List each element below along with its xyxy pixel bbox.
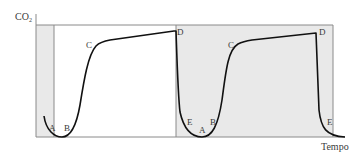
phase-label-c2: C bbox=[228, 40, 234, 50]
phase-label-e3: E bbox=[327, 117, 333, 127]
phase-label-d2: D bbox=[319, 27, 326, 37]
phase-label-a2: A bbox=[199, 125, 206, 135]
phase-label-b2: B bbox=[210, 117, 216, 127]
capnogram-diagram: CO2 Tempo A B C D E A B C D E bbox=[0, 0, 361, 162]
phase-label-e2: E bbox=[187, 117, 193, 127]
phase-label-c1: C bbox=[86, 40, 92, 50]
phase-label-d1: D bbox=[177, 27, 184, 37]
y-axis-label: CO2 bbox=[15, 11, 32, 23]
x-axis-label: Tempo bbox=[321, 141, 349, 152]
phase-label-b1: B bbox=[64, 123, 70, 133]
shaded-region-right bbox=[176, 25, 333, 137]
phase-label-a1: A bbox=[49, 123, 56, 133]
